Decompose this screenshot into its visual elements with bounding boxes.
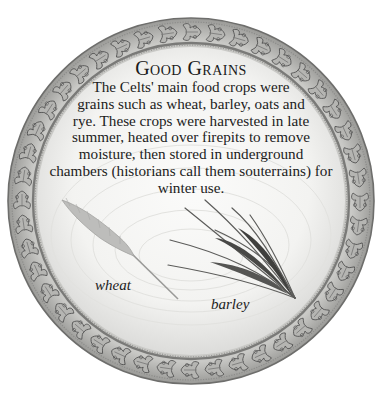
- body-line: moisture, then stored in underground: [52, 146, 330, 163]
- body-line: winter use.: [52, 180, 330, 197]
- wheat-label: wheat: [95, 277, 131, 294]
- panel-body-text: The Celts' main food crops were grains s…: [52, 79, 330, 197]
- body-line: chambers (historians call them souterrai…: [32, 163, 350, 180]
- body-line: summer, heated over firepits to remove: [52, 129, 330, 146]
- body-line: rye. These crops were harvested in late: [52, 113, 330, 130]
- body-line: grains such as wheat, barley, oats and: [52, 96, 330, 113]
- barley-label: barley: [211, 296, 249, 313]
- body-line: The Celts' main food crops were: [52, 79, 330, 96]
- grains-info-plate: Good Grains The Celts' main food crops w…: [0, 0, 382, 415]
- panel-title: Good Grains: [0, 58, 382, 78]
